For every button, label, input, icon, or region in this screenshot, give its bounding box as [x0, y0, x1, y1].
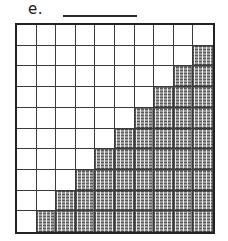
- grid-cell-shaded[interactable]: [174, 149, 194, 170]
- grid-cell-empty[interactable]: [76, 46, 96, 67]
- answer-blank-line[interactable]: [63, 15, 137, 17]
- grid-cell-shaded[interactable]: [95, 149, 115, 170]
- grid-cell-shaded[interactable]: [76, 191, 96, 212]
- grid-cell-shaded[interactable]: [56, 211, 76, 232]
- grid-cell-shaded[interactable]: [193, 211, 213, 232]
- grid-cell-shaded[interactable]: [95, 191, 115, 212]
- grid-cell-shaded[interactable]: [135, 129, 155, 150]
- grid-cell-empty[interactable]: [17, 211, 37, 232]
- grid-cell-empty[interactable]: [17, 46, 37, 67]
- grid-cell-empty[interactable]: [95, 25, 115, 46]
- grid-cell-shaded[interactable]: [193, 170, 213, 191]
- grid-cell-empty[interactable]: [56, 129, 76, 150]
- grid-cell-empty[interactable]: [135, 46, 155, 67]
- grid-cell-empty[interactable]: [37, 108, 57, 129]
- grid-cell-empty[interactable]: [115, 108, 135, 129]
- grid-cell-shaded[interactable]: [193, 129, 213, 150]
- grid-cell-empty[interactable]: [56, 46, 76, 67]
- grid-cell-empty[interactable]: [115, 46, 135, 67]
- grid-cell-empty[interactable]: [17, 191, 37, 212]
- grid-cell-shaded[interactable]: [76, 211, 96, 232]
- grid-cell-shaded[interactable]: [154, 191, 174, 212]
- grid-cell-shaded[interactable]: [115, 191, 135, 212]
- grid-cell-shaded[interactable]: [135, 191, 155, 212]
- grid-cell-empty[interactable]: [17, 129, 37, 150]
- grid-cell-shaded[interactable]: [135, 211, 155, 232]
- grid-cell-empty[interactable]: [95, 66, 115, 87]
- grid-cell-shaded[interactable]: [76, 170, 96, 191]
- grid-cell-empty[interactable]: [95, 87, 115, 108]
- grid-cell-empty[interactable]: [37, 170, 57, 191]
- grid-cell-shaded[interactable]: [193, 108, 213, 129]
- grid-cell-shaded[interactable]: [174, 129, 194, 150]
- grid-cell-shaded[interactable]: [174, 191, 194, 212]
- grid-cell-empty[interactable]: [76, 108, 96, 129]
- grid-cell-empty[interactable]: [95, 108, 115, 129]
- grid-cell-shaded[interactable]: [95, 211, 115, 232]
- grid-cell-empty[interactable]: [37, 66, 57, 87]
- grid-cell-empty[interactable]: [193, 25, 213, 46]
- grid-cell-empty[interactable]: [37, 149, 57, 170]
- grid-cell-empty[interactable]: [76, 25, 96, 46]
- grid-cell-shaded[interactable]: [193, 149, 213, 170]
- grid-cell-shaded[interactable]: [154, 211, 174, 232]
- grid-cell-shaded[interactable]: [193, 191, 213, 212]
- grid-cell-empty[interactable]: [174, 25, 194, 46]
- grid-cell-empty[interactable]: [135, 87, 155, 108]
- grid-cell-shaded[interactable]: [154, 170, 174, 191]
- grid-cell-shaded[interactable]: [154, 108, 174, 129]
- grid-cell-shaded[interactable]: [174, 108, 194, 129]
- grid-cell-empty[interactable]: [17, 87, 37, 108]
- grid-cell-empty[interactable]: [56, 25, 76, 46]
- grid-cell-empty[interactable]: [95, 129, 115, 150]
- grid-cell-shaded[interactable]: [174, 87, 194, 108]
- grid-cell-empty[interactable]: [76, 87, 96, 108]
- grid-cell-shaded[interactable]: [174, 170, 194, 191]
- grid-cell-empty[interactable]: [154, 46, 174, 67]
- grid-cell-empty[interactable]: [154, 25, 174, 46]
- grid-cell-shaded[interactable]: [135, 108, 155, 129]
- grid-cell-empty[interactable]: [17, 170, 37, 191]
- grid-cell-shaded[interactable]: [154, 87, 174, 108]
- grid-cell-empty[interactable]: [56, 87, 76, 108]
- grid-cell-empty[interactable]: [37, 46, 57, 67]
- grid-cell-empty[interactable]: [76, 129, 96, 150]
- grid-cell-empty[interactable]: [115, 87, 135, 108]
- grid-cell-empty[interactable]: [115, 25, 135, 46]
- grid-cell-shaded[interactable]: [174, 211, 194, 232]
- grid-cell-empty[interactable]: [115, 66, 135, 87]
- grid-cell-shaded[interactable]: [37, 211, 57, 232]
- grid-cell-empty[interactable]: [37, 87, 57, 108]
- grid-cell-empty[interactable]: [17, 66, 37, 87]
- grid-cell-empty[interactable]: [17, 108, 37, 129]
- grid-cell-empty[interactable]: [56, 170, 76, 191]
- grid-cell-empty[interactable]: [17, 25, 37, 46]
- grid-cell-shaded[interactable]: [115, 211, 135, 232]
- grid-cell-shaded[interactable]: [193, 46, 213, 67]
- grid-cell-empty[interactable]: [76, 149, 96, 170]
- grid-cell-shaded[interactable]: [56, 191, 76, 212]
- grid-cell-empty[interactable]: [76, 66, 96, 87]
- grid-cell-shaded[interactable]: [174, 66, 194, 87]
- grid-cell-empty[interactable]: [37, 191, 57, 212]
- grid-cell-shaded[interactable]: [115, 149, 135, 170]
- grid-cell-shaded[interactable]: [154, 129, 174, 150]
- grid-cell-shaded[interactable]: [135, 149, 155, 170]
- grid-cell-empty[interactable]: [154, 66, 174, 87]
- grid-cell-empty[interactable]: [37, 25, 57, 46]
- grid-cell-empty[interactable]: [95, 46, 115, 67]
- grid-cell-shaded[interactable]: [115, 170, 135, 191]
- grid-cell-empty[interactable]: [56, 66, 76, 87]
- grid-cell-shaded[interactable]: [95, 170, 115, 191]
- grid-cell-shaded[interactable]: [193, 66, 213, 87]
- grid-cell-shaded[interactable]: [193, 87, 213, 108]
- grid-cell-shaded[interactable]: [115, 129, 135, 150]
- grid-cell-shaded[interactable]: [135, 170, 155, 191]
- grid-cell-empty[interactable]: [174, 46, 194, 67]
- grid-cell-empty[interactable]: [135, 25, 155, 46]
- grid-cell-empty[interactable]: [37, 129, 57, 150]
- grid-cell-empty[interactable]: [17, 149, 37, 170]
- grid-cell-empty[interactable]: [56, 108, 76, 129]
- grid-cell-shaded[interactable]: [154, 149, 174, 170]
- grid-cell-empty[interactable]: [135, 66, 155, 87]
